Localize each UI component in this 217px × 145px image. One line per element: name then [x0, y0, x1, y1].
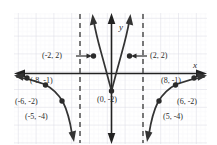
graph-layer: [0, 0, 217, 145]
graph-figure: y x (-2, 2) (2, 2) (0, -2) (-8, -1) (-6,…: [0, 0, 217, 145]
x-axis: [14, 70, 207, 78]
marker-pos6-neg2: [173, 82, 178, 87]
marker-0-neg2: [109, 88, 114, 93]
marker-pos5-neg4: [156, 98, 161, 103]
point-markers: [24, 53, 196, 103]
marker-neg8-neg1: [24, 75, 29, 80]
marker-pos8-neg1: [191, 75, 196, 80]
marker-neg5-neg4: [59, 98, 64, 103]
marker-neg6-neg2: [43, 82, 48, 87]
